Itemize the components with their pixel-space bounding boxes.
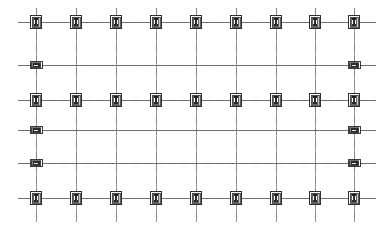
column-flange-gap-left [154,196,155,200]
column-flange-gap-right [117,20,118,24]
beam-splice-symbol-6[interactable] [348,160,360,167]
column-symbol-7[interactable] [271,16,282,29]
column-flange-gap-left [313,20,314,24]
column-symbol-26[interactable] [310,192,321,205]
column-symbol-1[interactable] [31,16,42,29]
column-flange-gap-right [157,20,158,24]
column-flange-gap-left [74,20,75,24]
structural-plan-svg[interactable] [0,0,388,232]
column-flange-gap-right [197,98,198,102]
column-flange-gap-left [313,196,314,200]
column-symbol-24[interactable] [231,192,242,205]
beam-web-slot [352,65,357,66]
column-flange-gap-right [157,196,158,200]
beam-web-slot [34,163,39,164]
column-flange-gap-right [316,98,317,102]
column-flange-gap-left [194,98,195,102]
column-symbol-20[interactable] [71,192,82,205]
beam-web-slot [34,130,39,131]
centerlines-layer [18,8,376,222]
column-symbol-27[interactable] [349,192,360,205]
column-symbol-11[interactable] [71,94,82,107]
column-symbol-14[interactable] [191,94,202,107]
column-symbol-21[interactable] [111,192,122,205]
column-flange-gap-left [154,98,155,102]
column-symbol-16[interactable] [271,94,282,107]
beam-splice-symbol-4[interactable] [348,127,360,134]
column-flange-gap-left [352,196,353,200]
cad-drawing-canvas[interactable] [0,0,388,232]
column-flange-gap-left [114,98,115,102]
column-flange-gap-left [274,196,275,200]
column-symbol-17[interactable] [310,94,321,107]
column-symbol-4[interactable] [151,16,162,29]
column-symbol-6[interactable] [231,16,242,29]
column-flange-gap-left [74,98,75,102]
column-flange-gap-right [157,98,158,102]
column-flange-gap-right [237,20,238,24]
column-symbol-8[interactable] [310,16,321,29]
column-symbol-3[interactable] [111,16,122,29]
column-flange-gap-right [277,196,278,200]
column-flange-gap-right [77,20,78,24]
column-flange-gap-left [194,196,195,200]
column-symbol-10[interactable] [31,94,42,107]
beam-web-slot [352,130,357,131]
horizontal-gridlines-layer [18,22,376,198]
column-flange-gap-left [274,20,275,24]
column-symbol-12[interactable] [111,94,122,107]
column-flange-gap-left [114,196,115,200]
column-flange-gap-right [37,98,38,102]
column-flange-gap-left [234,20,235,24]
column-flange-gap-left [313,98,314,102]
column-flange-gap-left [274,98,275,102]
column-symbols-layer[interactable] [30,16,360,205]
beam-splice-symbol-3[interactable] [30,127,42,134]
column-flange-gap-right [237,196,238,200]
column-symbol-13[interactable] [151,94,162,107]
column-flange-gap-right [355,20,356,24]
column-flange-gap-right [277,98,278,102]
column-symbol-2[interactable] [71,16,82,29]
column-flange-gap-left [34,20,35,24]
beam-splice-symbol-2[interactable] [348,62,360,69]
column-symbol-25[interactable] [271,192,282,205]
column-symbol-22[interactable] [151,192,162,205]
column-flange-gap-right [77,196,78,200]
column-flange-gap-right [37,196,38,200]
column-flange-gap-right [117,196,118,200]
column-symbol-5[interactable] [191,16,202,29]
column-flange-gap-right [277,20,278,24]
column-flange-gap-right [237,98,238,102]
vertical-gridlines-layer [36,8,354,222]
column-flange-gap-right [316,20,317,24]
column-flange-gap-right [37,20,38,24]
column-flange-gap-left [234,196,235,200]
column-flange-gap-left [74,196,75,200]
column-flange-gap-right [316,196,317,200]
column-flange-gap-left [114,20,115,24]
column-flange-gap-left [34,196,35,200]
column-flange-gap-right [355,196,356,200]
column-flange-gap-right [355,98,356,102]
column-symbol-23[interactable] [191,192,202,205]
column-symbol-18[interactable] [349,94,360,107]
column-flange-gap-left [34,98,35,102]
column-symbol-9[interactable] [349,16,360,29]
column-flange-gap-right [197,20,198,24]
beam-splice-symbol-5[interactable] [30,160,42,167]
column-symbol-19[interactable] [31,192,42,205]
column-symbol-15[interactable] [231,94,242,107]
beam-web-slot [34,65,39,66]
column-flange-gap-right [117,98,118,102]
column-flange-gap-left [154,20,155,24]
column-flange-gap-left [194,20,195,24]
column-flange-gap-right [197,196,198,200]
beam-splice-symbol-1[interactable] [30,62,42,69]
column-flange-gap-left [352,20,353,24]
column-flange-gap-left [234,98,235,102]
beam-web-slot [352,163,357,164]
column-flange-gap-right [77,98,78,102]
column-flange-gap-left [352,98,353,102]
